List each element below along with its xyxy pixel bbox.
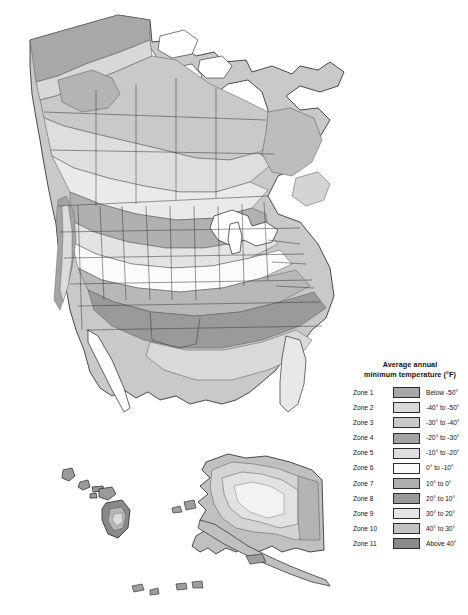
legend-swatch [393,402,420,413]
legend-zone-label: Zone 5 [352,447,393,459]
map-legend: Average annual minimum temperature (°F) … [352,360,468,549]
alaska-island-kodiak [246,554,266,564]
legend-row: Zone 8 20° to 10° [352,493,468,505]
legend-swatch [393,463,420,474]
legend-row: Zone 3 -30° to -40° [352,417,468,429]
legend-range-label: -30° to -40° [420,417,468,429]
hawaii-maui [99,487,116,500]
legend-swatch [393,538,420,549]
legend-zone-label: Zone 4 [352,432,393,444]
legend-row: Zone 7 10° to 0° [352,478,468,490]
legend-zone-label: Zone 3 [352,417,393,429]
florida-peninsula [280,336,306,412]
legend-rows: Zone 1 Below -50° Zone 2 -40° to -50° Zo… [352,387,468,549]
legend-row: Zone 11 Above 40° [352,538,468,550]
legend-title-line-1: Average annual [355,360,465,370]
plant-hardiness-zone-map: Average annual minimum temperature (°F) … [0,0,468,615]
legend-swatch [393,478,420,489]
alaska-aleutian-4 [192,581,203,588]
legend-title-line-2: minimum temperature (°F) [355,370,465,380]
legend-row: Zone 2 -40° to -50° [352,402,468,414]
legend-range-label: 20° to 10° [420,493,468,505]
legend-swatch [393,387,420,398]
legend-swatch [393,448,420,459]
alaska-interior-east [298,476,320,540]
legend-row: Zone 9 30° to 20° [352,508,468,520]
legend-zone-label: Zone 1 [352,387,393,399]
alaska-aleutian-2 [150,588,159,595]
legend-range-label: 40° to 30° [420,523,468,535]
alaska-aleutian-3 [176,583,187,590]
legend-zone-label: Zone 9 [352,508,393,520]
hawaii-oahu [78,480,90,490]
legend-range-label: Below -50° [420,387,468,399]
hawaii-lanai [90,493,97,498]
legend-swatch [393,493,420,504]
legend-row: Zone 10 40° to 30° [352,523,468,535]
hawaii-inset [62,468,130,538]
alaska-aleutian-1 [132,584,144,592]
legend-swatch [393,523,420,534]
legend-swatch [393,433,420,444]
legend-range-label: 0° to -10° [420,462,468,474]
legend-range-label: 10° to 0° [420,478,468,490]
legend-range-label: -40° to -50° [420,402,468,414]
legend-zone-label: Zone 2 [352,402,393,414]
legend-zone-label: Zone 6 [352,462,393,474]
legend-row: Zone 5 -10° to -20° [352,447,468,459]
legend-range-label: -20° to -30° [420,432,468,444]
legend-range-label: 30° to 20° [420,508,468,520]
legend-zone-label: Zone 7 [352,478,393,490]
legend-zone-label: Zone 8 [352,493,393,505]
legend-range-label: Above 40° [420,538,468,550]
zone-band-maritimes [292,172,330,206]
legend-swatch [393,508,420,519]
mainland-north-america [30,15,344,412]
legend-title: Average annual minimum temperature (°F) [352,360,468,379]
hawaii-kauai [62,468,75,481]
legend-row: Zone 1 Below -50° [352,387,468,399]
legend-swatch [393,417,420,428]
alaska-island-w1 [184,500,196,510]
legend-range-label: -10° to -20° [420,447,468,459]
legend-zone-label: Zone 10 [352,523,393,535]
alaska-inset [132,454,330,595]
legend-zone-label: Zone 11 [352,538,393,550]
alaska-island-w2 [172,506,182,513]
zone-band-quebec [262,108,322,176]
legend-row: Zone 4 -20° to -30° [352,432,468,444]
legend-row: Zone 6 0° to -10° [352,462,468,474]
